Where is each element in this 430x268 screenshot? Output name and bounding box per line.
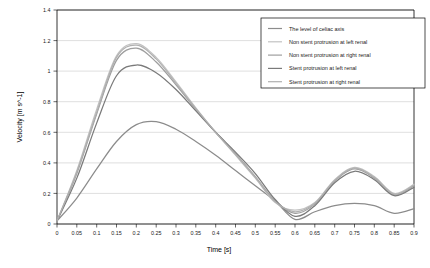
x-tick-label: 0.65 <box>310 230 321 236</box>
y-tick-label: 1.2 <box>43 38 51 44</box>
x-tick-label: 0.2 <box>133 230 141 236</box>
legend-label: Stent protrusion at right renal <box>289 79 360 85</box>
legend-label: Non stent protrusion at left renal <box>289 39 367 45</box>
legend-label: Non stent protrusion at right renal <box>289 52 371 58</box>
x-tick-label: 0.85 <box>389 230 400 236</box>
x-tick-label: 0 <box>56 230 59 236</box>
x-tick-label: 0.15 <box>111 230 122 236</box>
x-tick-label: 0.7 <box>331 230 339 236</box>
x-axis-title: Time [s] <box>207 246 232 254</box>
velocity-time-line-chart: 0 0.2 0.4 0.6 0.8 1 1.2 1.4 <box>0 0 430 268</box>
x-tick-label: 0.4 <box>212 230 220 236</box>
x-tick-label: 0.35 <box>191 230 202 236</box>
y-tick-label: 1 <box>48 68 51 74</box>
y-tick-label: 1.4 <box>43 7 51 13</box>
y-axis-title: Velocity [m s^-1] <box>16 92 24 143</box>
x-tick-label: 0.6 <box>291 230 299 236</box>
x-tick-label: 0.05 <box>72 230 83 236</box>
x-tick-label: 0.75 <box>349 230 360 236</box>
chart-svg: 0 0.2 0.4 0.6 0.8 1 1.2 1.4 <box>0 0 430 268</box>
x-tick-label: 0.5 <box>252 230 260 236</box>
y-tick-label: 0.4 <box>43 160 51 166</box>
x-tick-label: 0.25 <box>151 230 162 236</box>
x-tick-label: 0.45 <box>230 230 241 236</box>
x-tick-label: 0.3 <box>172 230 180 236</box>
y-tick-label: 0 <box>48 221 51 227</box>
x-tick-label: 0.9 <box>410 230 418 236</box>
x-tick-label: 0.8 <box>371 230 379 236</box>
y-tick-label: 0.6 <box>43 130 51 136</box>
legend-label: Stent protrusion at left renal <box>289 65 357 71</box>
y-tick-label: 0.2 <box>43 191 51 197</box>
x-tick-label: 0.55 <box>270 230 281 236</box>
y-tick-label: 0.8 <box>43 99 51 105</box>
x-tick-label: 0.1 <box>93 230 101 236</box>
chart-legend: The level of celiac axisNon stent protru… <box>261 18 425 88</box>
legend-label: The level of celiac axis <box>289 26 345 32</box>
